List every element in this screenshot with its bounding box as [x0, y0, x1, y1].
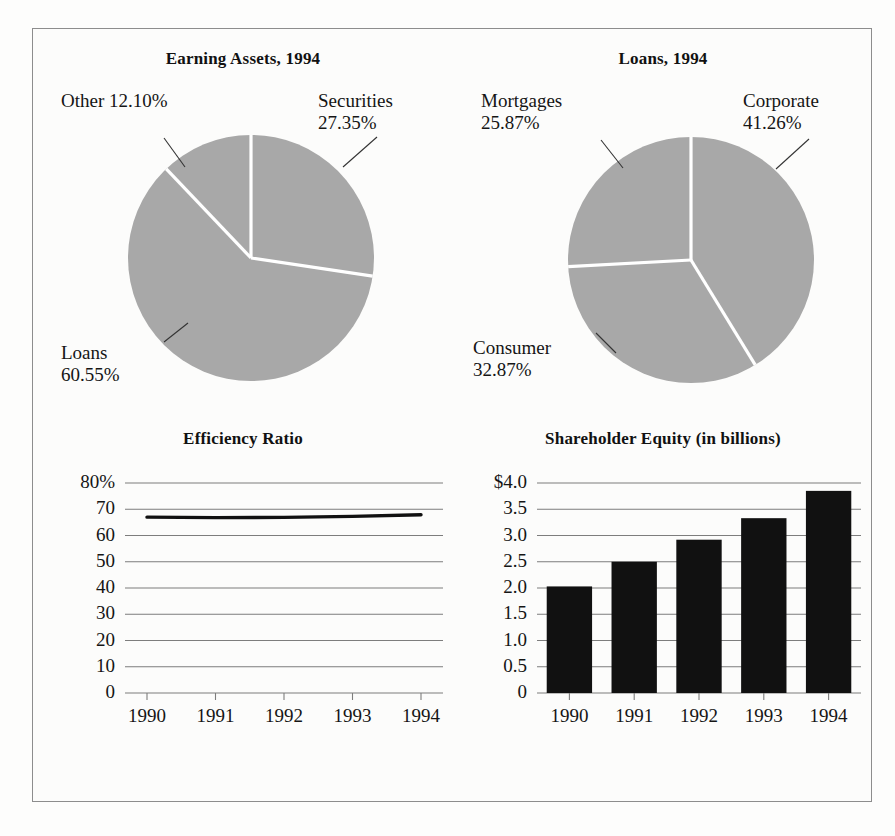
bar-1994 — [806, 491, 851, 693]
x-tick-label: 1992 — [249, 705, 319, 727]
y-tick-label: 40 — [33, 576, 115, 598]
bar-1992 — [676, 540, 721, 693]
y-tick-label: 60 — [33, 524, 115, 546]
leader-corporate — [776, 139, 809, 169]
x-tick-label: 1990 — [534, 705, 604, 727]
bar-1990 — [547, 586, 592, 693]
y-tick-label: 1.0 — [453, 629, 527, 651]
y-tick-label: 0.5 — [453, 655, 527, 677]
bar-1993 — [741, 518, 786, 693]
y-tick-label: 1.5 — [453, 602, 527, 624]
efficiency-ratio-series — [147, 515, 421, 518]
y-tick-label: 70 — [33, 497, 115, 519]
y-tick-label: 0 — [453, 681, 527, 703]
y-tick-label: 2.5 — [453, 550, 527, 572]
pie-label-securities: Securities 27.35% — [318, 90, 393, 134]
leader-mortgages — [601, 140, 623, 168]
x-tick-label: 1994 — [386, 705, 456, 727]
y-tick-label: $4.0 — [453, 471, 527, 493]
figure-root: Earning Assets, 1994 Other 12.10% Securi… — [0, 0, 895, 836]
y-tick-label: 80% — [33, 471, 115, 493]
x-tick-label: 1992 — [664, 705, 734, 727]
y-tick-label: 3.5 — [453, 497, 527, 519]
panel-loans: Loans, 1994 Mortgages 25.87% Corporate 4… — [453, 35, 873, 425]
x-tick-label: 1993 — [729, 705, 799, 727]
pie-label-corporate: Corporate 41.26% — [743, 90, 819, 134]
bar-1991 — [612, 562, 657, 693]
y-tick-label: 2.0 — [453, 576, 527, 598]
y-tick-label: 0 — [33, 681, 115, 703]
x-tick-label: 1990 — [112, 705, 182, 727]
panel-earning-assets: Earning Assets, 1994 Other 12.10% Securi… — [33, 35, 453, 425]
y-tick-label: 20 — [33, 629, 115, 651]
pie-label-mortgages: Mortgages 25.87% — [481, 90, 562, 134]
panel-efficiency-ratio: Efficiency Ratio 01020304050607080% 1990… — [33, 425, 453, 803]
pie-label-loans: Loans 60.55% — [61, 342, 120, 386]
figure-frame: Earning Assets, 1994 Other 12.10% Securi… — [32, 28, 872, 802]
x-tick-label: 1991 — [599, 705, 669, 727]
x-tick-label: 1994 — [794, 705, 864, 727]
y-tick-label: 50 — [33, 550, 115, 572]
x-tick-label: 1993 — [318, 705, 388, 727]
y-tick-label: 3.0 — [453, 524, 527, 546]
x-tick-label: 1991 — [181, 705, 251, 727]
pie-label-other: Other 12.10% — [61, 90, 168, 112]
y-tick-label: 30 — [33, 602, 115, 624]
pie-label-consumer: Consumer 32.87% — [473, 337, 551, 381]
panel-shareholder-equity: Shareholder Equity (in billions) 00.51.0… — [453, 425, 873, 803]
leader-securities — [343, 137, 377, 167]
y-tick-label: 10 — [33, 655, 115, 677]
